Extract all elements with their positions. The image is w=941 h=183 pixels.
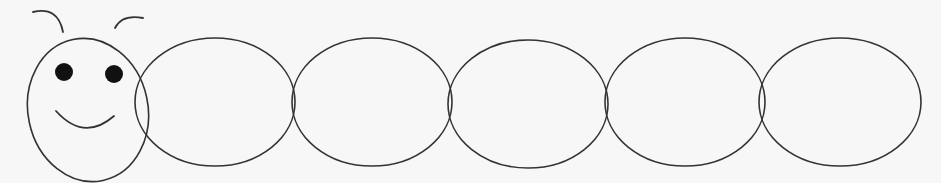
body-segment-1 [135, 38, 295, 166]
body-segment-5 [759, 38, 921, 166]
right-eye-icon [105, 65, 123, 83]
left-eye-icon [55, 63, 73, 81]
body-segments [135, 38, 921, 168]
caterpillar-drawing [0, 0, 941, 183]
body-segment-3 [448, 40, 608, 168]
body-segment-2 [292, 38, 452, 166]
body-segment-4 [605, 38, 765, 166]
